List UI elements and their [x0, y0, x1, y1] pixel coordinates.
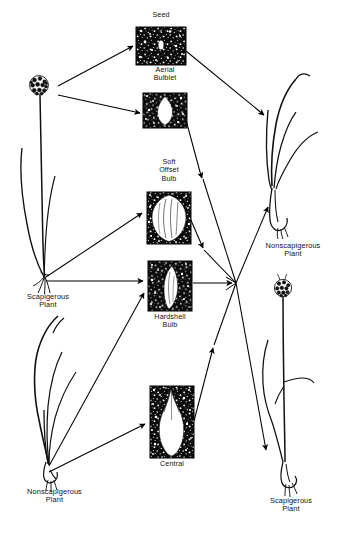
seed-shape: [158, 40, 163, 49]
propagule-box-hardshell-bulb: [148, 261, 192, 311]
diagram-svg: [0, 0, 346, 534]
propagule-box-central: [150, 386, 194, 458]
propagule-box-seed: [136, 27, 186, 65]
diagram-canvas: [0, 0, 346, 534]
propagule-box-soft-offset-bulb: [147, 192, 191, 244]
propagule-box-aerial-bulblet: [143, 93, 187, 128]
